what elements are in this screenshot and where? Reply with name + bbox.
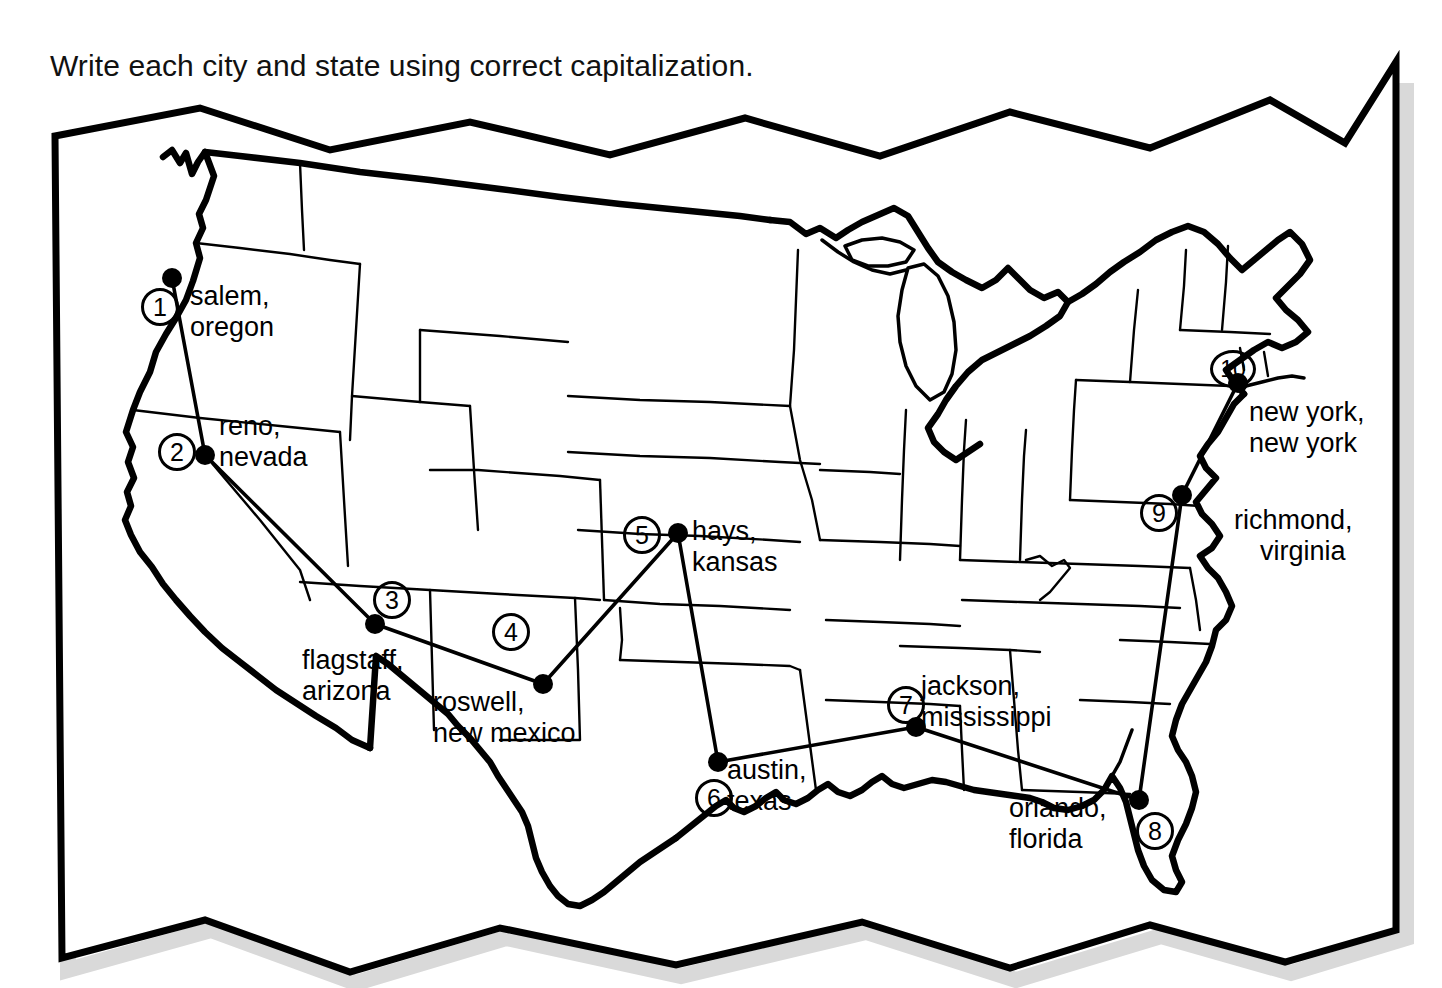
city-name-7: jackson, xyxy=(921,671,1052,702)
map-svg xyxy=(0,0,1442,988)
city-label-5: hays, kansas xyxy=(692,516,778,578)
city-name-1: salem, xyxy=(190,281,274,312)
us-map-figure xyxy=(0,0,1442,988)
state-name-9: virginia xyxy=(1234,536,1353,567)
city-name-2: reno, xyxy=(219,411,308,442)
state-name-7: mississippi xyxy=(921,702,1052,733)
city-label-1: salem, oregon xyxy=(190,281,274,343)
state-name-1: oregon xyxy=(190,312,274,343)
marker-badge-1[interactable]: 1 xyxy=(141,288,179,326)
city-label-8: orlando, florida xyxy=(1009,793,1107,855)
marker-badge-9[interactable]: 9 xyxy=(1140,494,1178,532)
state-name-10: new york xyxy=(1249,428,1365,459)
city-label-2: reno, nevada xyxy=(219,411,308,473)
city-dot-2[interactable] xyxy=(195,445,215,465)
city-name-9: richmond, xyxy=(1234,505,1353,536)
state-name-5: kansas xyxy=(692,547,778,578)
city-label-9: richmond, virginia xyxy=(1234,505,1353,567)
city-name-10: new york, xyxy=(1249,397,1365,428)
marker-badge-2[interactable]: 2 xyxy=(158,433,196,471)
city-label-4: roswell, new mexico xyxy=(433,687,576,749)
state-name-8: florida xyxy=(1009,824,1107,855)
state-name-4: new mexico xyxy=(433,718,576,749)
city-label-10: new york, new york xyxy=(1249,397,1365,459)
city-name-4: roswell, xyxy=(433,687,576,718)
state-name-2: nevada xyxy=(219,442,308,473)
city-name-5: hays, xyxy=(692,516,778,547)
marker-badge-7[interactable]: 7 xyxy=(887,686,925,724)
city-name-3: flagstaff, xyxy=(302,645,404,676)
city-dot-5[interactable] xyxy=(668,523,688,543)
city-dot-8[interactable] xyxy=(1129,790,1149,810)
city-label-6: austin, texas xyxy=(727,755,807,817)
worksheet-page: Write each city and state using correct … xyxy=(0,0,1442,988)
city-dot-3[interactable] xyxy=(365,614,385,634)
marker-badge-10[interactable]: 10 xyxy=(1210,350,1256,388)
city-label-3: flagstaff, arizona xyxy=(302,645,404,707)
marker-badge-3[interactable]: 3 xyxy=(373,581,411,619)
city-dot-6[interactable] xyxy=(708,752,728,772)
marker-badge-5[interactable]: 5 xyxy=(623,516,661,554)
city-dot-1[interactable] xyxy=(162,268,182,288)
state-name-3: arizona xyxy=(302,676,404,707)
city-name-8: orlando, xyxy=(1009,793,1107,824)
city-label-7: jackson, mississippi xyxy=(921,671,1052,733)
state-name-6: texas xyxy=(727,786,807,817)
marker-badge-4[interactable]: 4 xyxy=(492,613,530,651)
city-name-6: austin, xyxy=(727,755,807,786)
marker-badge-8[interactable]: 8 xyxy=(1136,812,1174,850)
